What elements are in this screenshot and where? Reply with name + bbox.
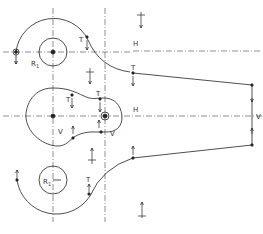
label-vertical-mid-right: V bbox=[110, 130, 115, 138]
label-horizontal-top: H bbox=[133, 40, 138, 48]
figure-caption bbox=[140, 226, 200, 232]
mid-left-center bbox=[51, 114, 55, 118]
mid-right-center bbox=[103, 114, 107, 118]
arm-bottom-edge bbox=[133, 145, 252, 158]
label-tangent-bottom: T bbox=[85, 176, 91, 184]
arm-top-left-point bbox=[132, 72, 134, 74]
label-tangent-mid-right: T bbox=[95, 90, 101, 98]
bottom-arc-outline bbox=[17, 158, 133, 214]
label-tangent-mid-left: T bbox=[65, 96, 71, 104]
label-radius-bottom-sub: 1 bbox=[48, 181, 51, 187]
label-tangent-top-line: T bbox=[130, 64, 136, 72]
drawing-canvas: R 1 R 1 T T T T T H H V V V bbox=[0, 0, 263, 234]
bottom-lobe bbox=[16, 158, 133, 214]
mid-tangent-point-left bbox=[71, 94, 73, 96]
arm-top-right-point bbox=[251, 84, 253, 86]
mid-bottom-tangent-left bbox=[72, 137, 74, 139]
label-vertical-right-edge: V bbox=[256, 113, 261, 121]
middle-lobe bbox=[26, 88, 122, 146]
tangent-point-bottom bbox=[88, 193, 90, 195]
label-radius-top-sub: 1 bbox=[36, 63, 39, 69]
arm-bottom-right-point bbox=[251, 144, 253, 146]
geometric-constraint-sketch: R 1 R 1 T T T T T H H V V V bbox=[0, 0, 263, 234]
mid-bottom-tangent-right bbox=[100, 131, 102, 133]
arm-top-edge bbox=[133, 73, 252, 85]
tangent-point-top bbox=[86, 36, 88, 38]
top-center-point bbox=[51, 50, 55, 54]
label-horizontal-mid: H bbox=[133, 106, 138, 114]
label-tangent-top-arc: T bbox=[78, 36, 84, 44]
label-vertical-mid-left: V bbox=[58, 128, 63, 136]
top-left-point bbox=[15, 51, 18, 54]
tapered-arm bbox=[132, 72, 253, 159]
mid-tangent-point-right bbox=[99, 98, 101, 100]
